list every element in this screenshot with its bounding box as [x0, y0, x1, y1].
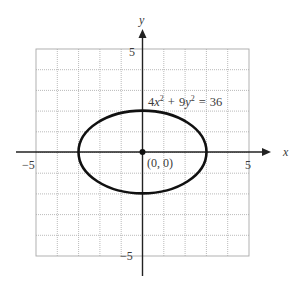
y-axis-label: y — [138, 13, 145, 27]
y-tick-neg5: −5 — [120, 249, 133, 263]
y-tick-pos5: 5 — [129, 45, 135, 59]
ellipse-graph: x y −5 5 5 −5 (0, 0) 4x2+9y2=36 — [0, 0, 294, 282]
x-axis-label: x — [282, 145, 289, 159]
equation-label: 4x2+9y2=36 — [148, 94, 222, 109]
x-tick-neg5: −5 — [22, 158, 35, 172]
x-tick-pos5: 5 — [245, 158, 251, 172]
center-label: (0, 0) — [147, 156, 173, 170]
center-point — [140, 149, 146, 155]
x-axis-arrow-icon — [262, 148, 271, 156]
y-axis-arrow-icon — [139, 29, 147, 38]
